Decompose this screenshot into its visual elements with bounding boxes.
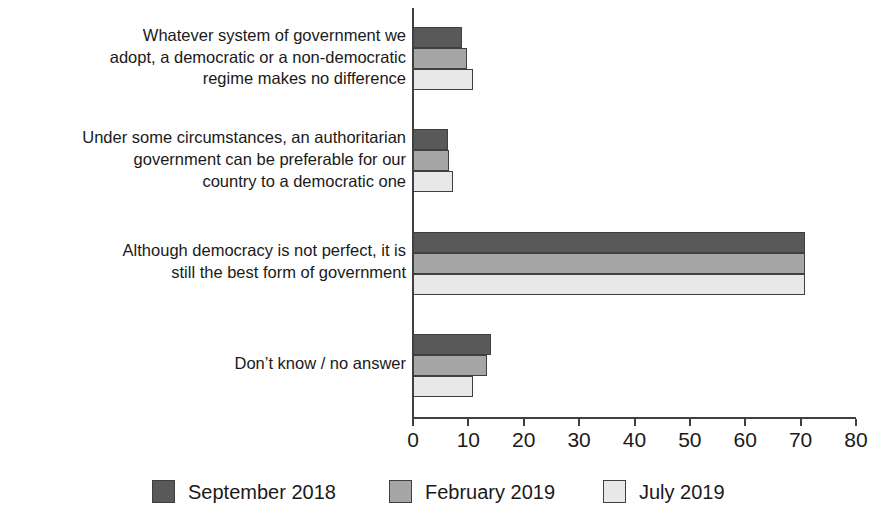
x-axis-tick-label: 60 bbox=[715, 427, 775, 453]
x-axis-tick-label: 0 bbox=[383, 427, 443, 453]
legend-label: February 2019 bbox=[425, 480, 555, 504]
bar bbox=[412, 48, 467, 69]
legend-item[interactable]: July 2019 bbox=[603, 476, 725, 507]
category-label-line: still the best form of government bbox=[8, 262, 406, 284]
legend-label: September 2018 bbox=[188, 480, 336, 504]
x-axis-tick-label: 80 bbox=[826, 427, 872, 453]
category-label-line: country to a democratic one bbox=[8, 171, 406, 193]
x-axis-tick bbox=[467, 419, 469, 426]
x-axis-tick bbox=[744, 419, 746, 426]
bar bbox=[412, 253, 805, 274]
category-label: Don’t know / no answer bbox=[8, 353, 406, 375]
bar bbox=[412, 150, 449, 171]
legend-item[interactable]: February 2019 bbox=[389, 476, 555, 507]
x-axis-tick bbox=[412, 419, 414, 426]
x-axis-tick-label: 20 bbox=[494, 427, 554, 453]
category-label-line: Don’t know / no answer bbox=[8, 353, 406, 375]
value-axis-line bbox=[412, 8, 414, 418]
plot-area bbox=[412, 8, 855, 417]
category-label-line: Under some circumstances, an authoritari… bbox=[8, 127, 406, 149]
category-label-line: regime makes no difference bbox=[8, 68, 406, 90]
bar bbox=[412, 171, 453, 192]
bar bbox=[412, 69, 473, 90]
x-axis-tick bbox=[578, 419, 580, 426]
legend-label: July 2019 bbox=[639, 480, 725, 504]
category-label: Although democracy is not perfect, it is… bbox=[8, 240, 406, 284]
x-axis-tick-label: 70 bbox=[771, 427, 831, 453]
x-axis-tick bbox=[855, 419, 857, 426]
x-axis-tick-label: 10 bbox=[438, 427, 498, 453]
bar bbox=[412, 129, 448, 150]
category-label-line: Although democracy is not perfect, it is bbox=[8, 240, 406, 262]
x-axis-tick bbox=[523, 419, 525, 426]
category-label-line: government can be preferable for our bbox=[8, 149, 406, 171]
bar bbox=[412, 376, 473, 397]
x-axis-tick bbox=[634, 419, 636, 426]
legend-swatch bbox=[389, 480, 412, 503]
bar bbox=[412, 355, 487, 376]
x-axis-tick-label: 40 bbox=[605, 427, 665, 453]
category-label: Under some circumstances, an authoritari… bbox=[8, 127, 406, 192]
x-axis-tick bbox=[689, 419, 691, 426]
x-axis-tick bbox=[800, 419, 802, 426]
x-axis-tick-label: 50 bbox=[660, 427, 720, 453]
x-axis-tick-label: 30 bbox=[549, 427, 609, 453]
bar bbox=[412, 334, 491, 355]
legend-swatch bbox=[603, 480, 626, 503]
legend-swatch bbox=[152, 480, 175, 503]
category-label: Whatever system of government weadopt, a… bbox=[8, 25, 406, 90]
legend: September 2018February 2019July 2019 bbox=[0, 476, 864, 507]
bar bbox=[412, 27, 462, 48]
bar bbox=[412, 274, 805, 295]
category-label-line: Whatever system of government we bbox=[8, 25, 406, 47]
legend-item[interactable]: September 2018 bbox=[152, 476, 336, 507]
bar bbox=[412, 232, 805, 253]
category-label-line: adopt, a democratic or a non-democratic bbox=[8, 47, 406, 69]
